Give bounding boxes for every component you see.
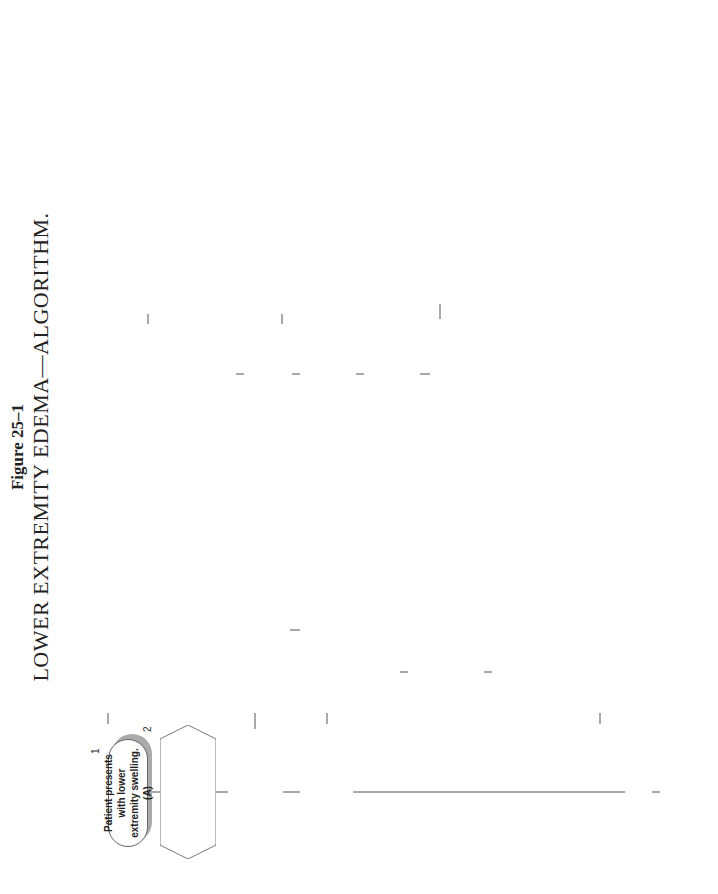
edema-algorithm-figure: Figure 25–1 LOWER EXTREMITY EDEMA—ALGORI… [0, 0, 718, 894]
node-1-number: 1 [90, 748, 101, 754]
node-2-number: 2 [142, 726, 153, 732]
node-1-start: Patient presents with lower extremity sw… [108, 739, 148, 847]
node-2-decision [160, 725, 216, 859]
